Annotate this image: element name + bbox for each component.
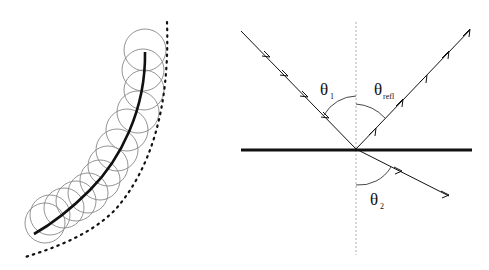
refracted-ray [356, 149, 449, 196]
theta-refl-subscript: refl [383, 92, 395, 101]
theta2-arc [356, 167, 391, 185]
source-curve [34, 52, 145, 234]
reflection-refraction-diagram: θ 1 θ refl θ 2 [241, 22, 472, 255]
theta-refl-arc [356, 104, 385, 118]
theta-refl-label: θ [374, 80, 382, 99]
theta1-subscript: 1 [330, 92, 334, 101]
figure: θ 1 θ refl θ 2 [0, 0, 489, 270]
theta1-arc [324, 96, 356, 115]
theta1-label: θ [320, 80, 328, 99]
incident-arrows [262, 51, 329, 118]
theta2-label: θ [370, 190, 378, 209]
wavefront-diagram [22, 22, 167, 258]
theta2-subscript: 2 [380, 202, 384, 211]
incident-ray [241, 31, 356, 149]
